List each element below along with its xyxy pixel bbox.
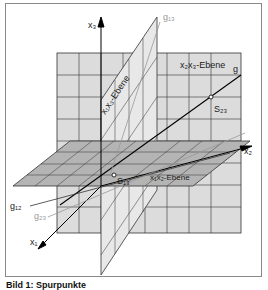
label-g13: g₁₃ [163, 12, 175, 22]
label-x1x2-plane: x₁x₂-Ebene [150, 173, 190, 182]
label-g23: g₂₃ [34, 211, 46, 221]
label-x2: x₂ [244, 146, 253, 156]
point-S23 [209, 95, 213, 99]
label-g: g [233, 64, 238, 74]
arrow-x3-icon [98, 17, 104, 27]
label-g12: g₁₂ [10, 201, 22, 211]
figure-caption: Bild 1: Spurpunkte [6, 280, 86, 290]
label-x2x3-plane: x₂x₃-Ebene [180, 60, 225, 70]
label-S13: S₁₃ [117, 176, 130, 186]
point-S13 [112, 173, 116, 177]
label-x1: x₁ [30, 237, 38, 247]
label-S23: S₂₃ [214, 104, 227, 114]
label-x3: x₃ [88, 20, 97, 30]
